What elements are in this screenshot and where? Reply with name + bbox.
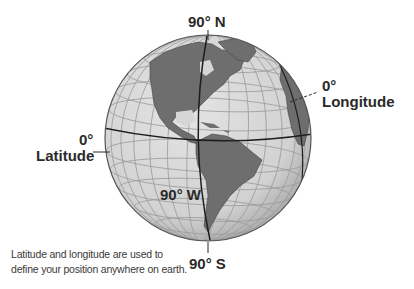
caption: Latitude and longitude are used to defin…	[11, 247, 187, 277]
caption-line-2: define your position anywhere on earth.	[11, 262, 187, 277]
meridian-90w-label: 90° W	[160, 187, 201, 203]
caption-line-1: Latitude and longitude are used to	[11, 247, 187, 262]
longitude-name-label: Longitude	[322, 94, 394, 110]
globe-diagram: 90° N 90° S 0° Longitude 0° Latitude 90°…	[0, 0, 414, 289]
globe-svg	[0, 0, 414, 289]
latitude-name-label: Latitude	[36, 148, 94, 164]
south-pole-label: 90° S	[189, 256, 226, 272]
longitude-value-label: 0°	[322, 78, 336, 94]
north-pole-label: 90° N	[188, 14, 226, 30]
latitude-value-label: 0°	[79, 132, 93, 148]
